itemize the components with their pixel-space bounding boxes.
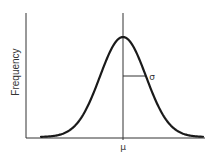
bell-curve [41, 37, 203, 137]
y-axis-label: Frequency [10, 48, 21, 95]
normal-distribution-figure: Frequency μ σ [0, 0, 212, 159]
chart-canvas [0, 0, 212, 159]
mean-label: μ [120, 142, 126, 152]
sigma-label: σ [149, 72, 155, 82]
